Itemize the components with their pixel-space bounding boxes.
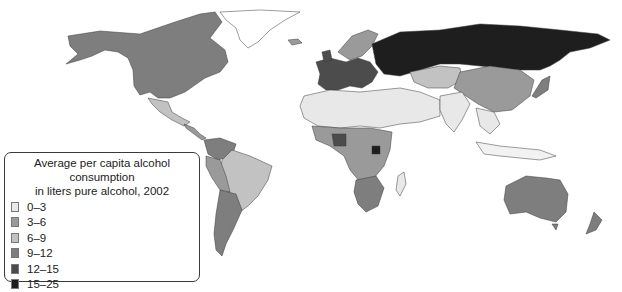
region-uk (322, 50, 332, 62)
region-western-europe (316, 58, 378, 90)
legend-swatch-15-25 (11, 279, 19, 289)
region-indonesia (476, 142, 556, 160)
region-southern-africa (354, 176, 384, 212)
region-central-america (184, 124, 206, 140)
region-nigeria (332, 134, 346, 146)
region-north-africa-middle-east (300, 88, 440, 128)
region-uganda (372, 146, 380, 154)
legend-title-line2: in liters pure alcohol, 2002 (11, 184, 193, 198)
region-greenland (220, 10, 300, 48)
legend-label: 9–12 (27, 247, 53, 259)
legend-item-6-9: 6–9 (11, 230, 193, 246)
region-south-asia (440, 92, 470, 132)
legend-items: 0–3 3–6 6–9 9–12 12–15 15–25 (11, 199, 193, 292)
legend-item-15-25: 15–25 (11, 277, 193, 292)
region-japan (532, 76, 550, 98)
map-legend: Average per capita alcohol consumption i… (4, 152, 200, 282)
legend-title-line1: Average per capita alcohol consumption (11, 156, 193, 184)
legend-label: 15–25 (27, 278, 59, 290)
legend-label: 0–3 (27, 201, 46, 213)
region-madagascar (396, 172, 406, 196)
region-north-america (66, 12, 228, 98)
region-iceland (288, 39, 302, 45)
region-australia (504, 176, 568, 222)
legend-swatch-9-12 (11, 248, 19, 258)
legend-item-9-12: 9–12 (11, 246, 193, 262)
region-argentina-chile (214, 190, 242, 256)
region-new-zealand (586, 212, 602, 234)
legend-swatch-3-6 (11, 217, 19, 227)
legend-item-3-6: 3–6 (11, 215, 193, 231)
legend-label: 3–6 (27, 216, 46, 228)
legend-swatch-12-15 (11, 264, 19, 274)
region-tasmania (552, 224, 558, 230)
legend-label: 12–15 (27, 263, 59, 275)
legend-label: 6–9 (27, 232, 46, 244)
legend-item-12-15: 12–15 (11, 261, 193, 277)
region-mexico (148, 98, 190, 126)
legend-item-0-3: 0–3 (11, 199, 193, 215)
legend-swatch-6-9 (11, 233, 19, 243)
legend-swatch-0-3 (11, 202, 19, 212)
